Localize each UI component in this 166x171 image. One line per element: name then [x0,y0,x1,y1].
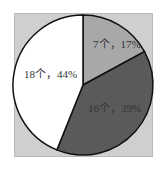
slice-label-1: 7个，17% [93,38,141,50]
slice-label-3: 18个，44% [24,68,77,80]
pie-chart: 7个，17% 16个，39% 18个，44% [0,0,166,171]
slice-label-2: 16个，39% [88,102,141,114]
